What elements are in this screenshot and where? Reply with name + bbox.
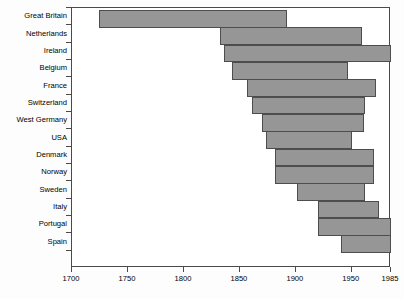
y-axis-tick: [66, 42, 71, 43]
x-axis-label-1700: 1700: [63, 274, 80, 283]
y-axis-tick: [66, 180, 71, 181]
x-axis-label-1850: 1850: [230, 274, 247, 283]
bar-usa: [266, 131, 352, 149]
y-axis-label-netherlands: Netherlands: [0, 29, 67, 38]
x-axis-label-1750: 1750: [119, 274, 136, 283]
x-axis-label-1800: 1800: [174, 274, 191, 283]
y-axis-label-norway: Norway: [0, 167, 67, 176]
x-axis-tick: [295, 267, 296, 272]
bar-italy: [318, 201, 378, 219]
y-axis-tick: [66, 94, 71, 95]
y-axis-label-west-germany: West Germany: [0, 115, 67, 124]
bar-ireland: [224, 45, 391, 63]
bars-layer: [72, 8, 389, 266]
bar-france: [247, 79, 377, 97]
bar-sweden: [297, 183, 365, 201]
bar-spain: [341, 235, 391, 253]
y-axis-label-switzerland: Switzerland: [0, 98, 67, 107]
bar-great-britain: [99, 10, 287, 28]
bar-netherlands: [220, 27, 362, 45]
y-axis-tick: [66, 76, 71, 77]
y-axis-labels: Great BritainNetherlandsIrelandBelgiumFr…: [0, 7, 67, 267]
x-axis-tick: [71, 267, 72, 272]
y-axis-tick: [66, 215, 71, 216]
y-axis-tick: [66, 59, 71, 60]
x-axis-tick: [390, 267, 391, 272]
x-axis-tick: [351, 267, 352, 272]
y-axis-tick: [66, 250, 71, 251]
y-axis-label-denmark: Denmark: [0, 150, 67, 159]
y-axis-label-spain: Spain: [0, 237, 67, 246]
y-axis-label-great-britain: Great Britain: [0, 11, 67, 20]
y-axis-tick: [66, 111, 71, 112]
bar-norway: [275, 166, 375, 184]
x-axis-label-1985: 1985: [382, 274, 399, 283]
y-axis-label-sweden: Sweden: [0, 185, 67, 194]
y-axis-tick: [66, 146, 71, 147]
bar-portugal: [318, 218, 391, 236]
bar-denmark: [275, 149, 375, 167]
y-axis-tick: [66, 24, 71, 25]
y-axis-label-italy: Italy: [0, 202, 67, 211]
y-axis-label-france: France: [0, 81, 67, 90]
plot-area: [71, 7, 390, 267]
x-axis-label-1950: 1950: [342, 274, 359, 283]
bar-belgium: [232, 62, 348, 80]
y-axis-tick: [66, 163, 71, 164]
x-axis-label-1900: 1900: [286, 274, 303, 283]
x-axis-tick: [183, 267, 184, 272]
y-axis-label-belgium: Belgium: [0, 63, 67, 72]
bar-west-germany: [262, 114, 364, 132]
chart-container: Great BritainNetherlandsIrelandBelgiumFr…: [0, 0, 404, 299]
y-axis-label-ireland: Ireland: [0, 46, 67, 55]
y-axis-tick: [66, 232, 71, 233]
x-axis-tick: [239, 267, 240, 272]
y-axis-label-usa: USA: [0, 133, 67, 142]
y-axis-label-portugal: Portugal: [0, 219, 67, 228]
bar-switzerland: [252, 97, 365, 115]
y-axis-tick: [66, 128, 71, 129]
y-axis-tick: [66, 7, 71, 8]
x-axis-tick: [127, 267, 128, 272]
y-axis-tick: [66, 198, 71, 199]
